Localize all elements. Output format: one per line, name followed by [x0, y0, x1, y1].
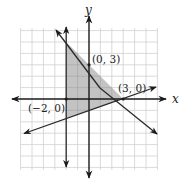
point-0-3 [87, 63, 90, 66]
point-neg2-0 [65, 97, 68, 100]
point-label-0-3: (0, 3) [92, 53, 120, 65]
point-3-0 [122, 97, 125, 100]
coordinate-graph: y x (0, 3) (3, 0) (−2, 0) [0, 0, 187, 182]
point-label-neg2-0: (−2, 0) [28, 102, 65, 114]
y-axis-label: y [84, 3, 92, 17]
decreasing-line-down [100, 88, 157, 134]
point-label-3-0: (3, 0) [118, 82, 146, 94]
x-axis-label: x [172, 92, 179, 106]
